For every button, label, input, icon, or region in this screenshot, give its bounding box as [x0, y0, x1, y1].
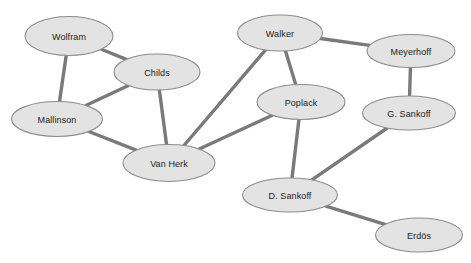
node-label-meyerhoff: Meyerhoff [391, 47, 432, 57]
network-diagram-canvas: WolframChildsMallinsonVan HerkWalkerMeye… [0, 0, 471, 263]
node-walker[interactable]: Walker [238, 15, 323, 51]
node-label-mallinson: Mallinson [38, 115, 77, 125]
node-erdos[interactable]: Erdös [376, 218, 463, 252]
edge-walker-poplack [285, 51, 295, 85]
node-label-walker: Walker [266, 29, 294, 39]
edge-wolfram-childs [101, 49, 126, 59]
node-dsankoff[interactable]: D. Sankoff [243, 178, 338, 212]
edge-wolfram-mallinson [60, 55, 67, 101]
edge-dsankoff-erdos [326, 206, 385, 224]
node-gsankoff[interactable]: G. Sankoff [363, 96, 456, 130]
edge-gsankoff-dsankoff [312, 128, 387, 180]
node-label-dsankoff: D. Sankoff [269, 191, 312, 201]
edge-mallinson-vanherk [89, 132, 136, 151]
node-label-vanherk: Van Herk [150, 159, 188, 169]
node-childs[interactable]: Childs [114, 54, 200, 90]
edge-walker-meyerhoff [320, 39, 369, 46]
node-meyerhoff[interactable]: Meyerhoff [367, 35, 455, 68]
edge-childs-vanherk [159, 90, 166, 145]
edge-childs-mallinson [86, 85, 129, 105]
network-graph: WolframChildsMallinsonVan HerkWalkerMeye… [0, 0, 471, 263]
node-label-erdos: Erdös [407, 231, 431, 241]
node-mallinson[interactable]: Mallinson [12, 102, 103, 137]
node-label-wolfram: Wolfram [52, 32, 86, 42]
node-label-childs: Childs [144, 68, 170, 78]
node-label-gsankoff: G. Sankoff [387, 109, 431, 119]
edge-poplack-dsankoff [292, 119, 299, 178]
edge-meyerhoff-gsankoff [410, 68, 411, 97]
edge-layer [60, 39, 411, 225]
node-layer: WolframChildsMallinsonVan HerkWalkerMeye… [12, 15, 463, 252]
edge-poplack-vanherk [199, 115, 272, 149]
node-label-poplack: Poplack [285, 98, 318, 108]
node-wolfram[interactable]: Wolfram [25, 17, 113, 56]
node-vanherk[interactable]: Van Herk [123, 145, 215, 182]
node-poplack[interactable]: Poplack [257, 85, 345, 120]
